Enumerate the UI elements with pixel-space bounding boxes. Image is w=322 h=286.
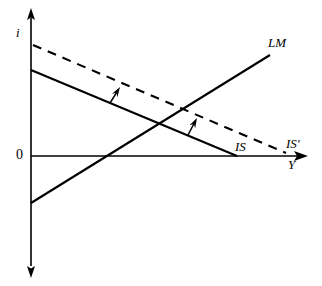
origin-label: 0 [16,148,23,162]
is-lm-figure: i 0 Y LM IS IS' [0,0,322,286]
up-right-arrow-icon [112,87,120,97]
up-right-arrow-icon-2 [189,118,197,128]
horizontal-axis-label: Y [288,158,295,171]
is-curve-label: IS [235,140,246,153]
curves-group [31,45,286,203]
vertical-axis-label: i [16,26,20,39]
is-prime-curve [33,45,286,153]
is-curve [31,70,237,156]
lm-curve [31,55,270,203]
axes-group [27,8,308,278]
axis-arrow-down-icon [27,266,35,278]
is-prime-curve-label: IS' [286,137,300,150]
lm-curve-label: LM [268,36,286,49]
